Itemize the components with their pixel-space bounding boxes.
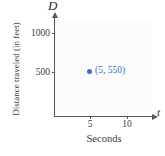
x-tick-label-5: 5: [80, 119, 100, 129]
x-axis-line: [54, 116, 154, 117]
x-axis-variable-label: t: [157, 106, 160, 118]
x-axis-title: Seconds: [54, 133, 154, 144]
data-point-label: (5, 550): [95, 65, 125, 75]
y-axis-line: [54, 17, 55, 117]
y-axis-variable-label: D: [48, 0, 57, 14]
y-tick-mark-500: [52, 72, 55, 73]
y-axis-title: Distance traveled (in feet): [11, 14, 21, 124]
data-point-marker: [87, 69, 92, 74]
y-tick-mark-1000: [52, 33, 55, 34]
distance-vs-time-graph: D t 5 10 500 1000 Distance traveled (in …: [0, 0, 165, 156]
y-tick-label-1000: 1000: [22, 28, 50, 38]
y-tick-label-500: 500: [22, 67, 50, 77]
x-tick-label-10: 10: [117, 119, 137, 129]
